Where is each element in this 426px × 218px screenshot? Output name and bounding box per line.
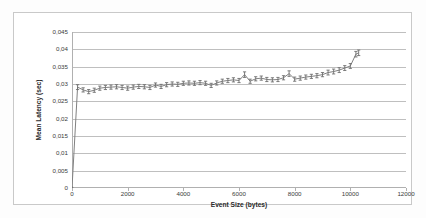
x-axis-tick-mark — [406, 188, 407, 191]
y-axis-tick-label: 0,005 — [24, 168, 68, 174]
x-axis-tick-mark — [72, 188, 73, 191]
x-axis-tick-mark — [183, 188, 184, 191]
x-axis-tick-label: 6000 — [232, 191, 246, 197]
x-axis-tick-mark — [295, 188, 296, 191]
plot-area — [72, 32, 406, 188]
y-axis-tick-label: 0 — [24, 185, 68, 191]
chart-frame: 00,0050,010,0150,020,0250,030,0350,040,0… — [13, 12, 412, 205]
x-axis-tick-labels: 020004000600080001000012000 — [72, 191, 406, 201]
y-axis-tick-labels: 00,0050,010,0150,020,0250,030,0350,040,0… — [22, 32, 68, 188]
series-line — [72, 53, 359, 188]
x-axis-tick-label: 10000 — [342, 191, 359, 197]
y-axis-tick-label: 0,045 — [24, 29, 68, 35]
y-axis-tick-label: 0,015 — [24, 133, 68, 139]
x-axis-tick-label: 0 — [70, 191, 73, 197]
x-axis-tick-label: 4000 — [176, 191, 190, 197]
y-axis-tick-label: 0,04 — [24, 46, 68, 52]
x-axis-tick-label: 12000 — [397, 191, 414, 197]
y-axis-tick-label: 0,025 — [24, 98, 68, 104]
y-axis-title: Mean Latency (sec) — [33, 46, 43, 174]
y-axis-tick-label: 0,035 — [24, 64, 68, 70]
y-axis-tick-label: 0,02 — [24, 116, 68, 122]
y-axis-tick-label: 0,01 — [24, 150, 68, 156]
x-axis-tick-label: 2000 — [121, 191, 135, 197]
x-axis-tick-mark — [128, 188, 129, 191]
x-axis-tick-label: 8000 — [288, 191, 302, 197]
chart-screenshot: 00,0050,010,0150,020,0250,030,0350,040,0… — [0, 0, 426, 218]
x-axis-tick-mark — [350, 188, 351, 191]
y-axis-tick-label: 0,03 — [24, 81, 68, 87]
data-series-mean-latency — [72, 32, 406, 188]
x-axis-title-label: Event Size (bytes) — [72, 201, 406, 208]
y-axis-title-label: Mean Latency (sec) — [35, 80, 42, 141]
x-axis-tick-mark — [239, 188, 240, 191]
